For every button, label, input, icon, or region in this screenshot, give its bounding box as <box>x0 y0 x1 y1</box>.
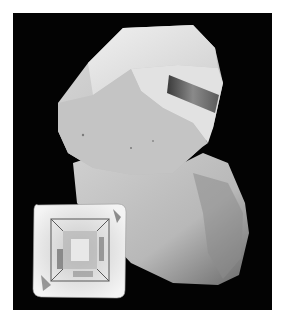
specimen-illustration <box>13 13 272 310</box>
cut-gemstone <box>33 204 126 298</box>
crystal-specimen <box>58 25 223 175</box>
photo <box>13 13 272 310</box>
